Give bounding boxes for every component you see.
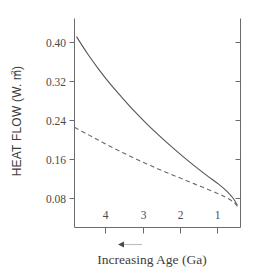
series-dashed-curve — [75, 127, 238, 206]
y-axis-title-main: HEAT FLOW (W. m — [10, 70, 24, 177]
x-tick-label-4: 4 — [103, 209, 109, 221]
x-axis-tick-labels: 4 3 2 1 — [103, 209, 221, 221]
x-tick-label-3: 3 — [141, 209, 147, 221]
x-tick-label-1: 1 — [215, 209, 221, 221]
y-axis-title: HEAT FLOW (W. m 2 ) — [9, 66, 24, 176]
heat-flow-figure: 0.40 0.32 0.24 0.16 0.08 4 3 2 1 — [0, 0, 259, 273]
y-axis-tick-marks-right — [236, 43, 241, 199]
series-solid-curve — [76, 37, 237, 206]
y-tick-label-040: 0.40 — [46, 37, 66, 49]
data-series-group — [75, 37, 238, 207]
y-tick-label-016: 0.16 — [46, 154, 66, 166]
y-axis-tick-labels: 0.40 0.32 0.24 0.16 0.08 — [46, 37, 66, 205]
x-axis-title: Increasing Age (Ga) — [97, 252, 206, 267]
y-tick-label-032: 0.32 — [46, 76, 66, 88]
chart-canvas: 0.40 0.32 0.24 0.16 0.08 4 3 2 1 — [0, 0, 259, 273]
left-arrow-icon — [118, 242, 124, 248]
x-tick-label-2: 2 — [178, 209, 184, 221]
y-tick-label-008: 0.08 — [46, 193, 66, 205]
axes-frame — [75, 19, 241, 228]
x-axis-tick-marks — [106, 228, 218, 234]
y-axis-tick-marks-left — [70, 43, 75, 199]
y-tick-label-024: 0.24 — [46, 115, 66, 127]
age-direction-arrow — [118, 242, 142, 248]
y-axis-title-close: ) — [10, 66, 24, 70]
